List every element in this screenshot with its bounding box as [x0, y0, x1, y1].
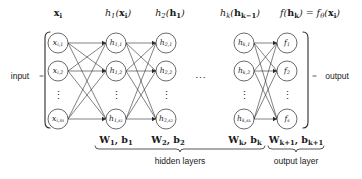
node-label-h-k-2: hk,2	[238, 67, 250, 76]
top-label-input: xi	[54, 8, 62, 19]
weight-label-wk1: Wk+1, bk+1	[269, 135, 323, 146]
side-label-output: output	[325, 72, 349, 81]
weight-label-wk: Wk, bk	[228, 135, 261, 146]
node-label-h-1-1: h1,1	[110, 39, 122, 48]
horizontal-ellipsis-layers: ⋯	[195, 73, 206, 84]
vertical-ellipsis-input: ⋮	[53, 90, 64, 101]
vertical-ellipsis-hidden1: ⋮	[111, 90, 122, 101]
vertical-ellipsis-output: ⋮	[282, 90, 293, 101]
node-label-x-i-2: xi,2	[53, 67, 63, 76]
group-label-output-layer: output layer	[274, 157, 318, 166]
node-label-f-2: f2	[284, 67, 290, 76]
node-label-h-2-1: h2,1	[160, 39, 172, 48]
top-label-hidden-1: h1(xi)	[105, 8, 131, 19]
neural-network-figure: xi h1(xi) h2(h1) hk(hk−1) f(hk) = fθ(xi)…	[0, 0, 362, 179]
top-label-hidden-k: hk(hk−1)	[220, 8, 260, 19]
side-label-input: input	[11, 72, 29, 81]
node-label-h-k-1: hk,1	[238, 39, 250, 48]
top-label-output: f(hk) = fθ(xi)	[280, 8, 340, 19]
network-brackets	[45, 32, 308, 128]
vertical-ellipsis-hiddenk: ⋮	[239, 90, 250, 101]
vertical-ellipsis-hidden2: ⋮	[161, 90, 172, 101]
node-label-h-k-sk: hk,sk	[237, 115, 251, 124]
weight-label-w2: W2, b2	[151, 135, 184, 146]
group-label-hidden-layers: hidden layers	[155, 157, 206, 166]
node-label-f-1: f1	[284, 39, 290, 48]
underbraces	[95, 146, 324, 152]
node-label-x-i-1: xi,1	[53, 39, 63, 48]
node-label-f-s: fs	[284, 115, 289, 124]
node-label-x-i-m: xi,m	[52, 115, 64, 124]
node-label-h-1-2: h1,2	[110, 67, 122, 76]
weight-label-w1: W1, b1	[99, 135, 132, 146]
node-label-h-2-s2: h2,s2	[159, 115, 173, 124]
node-label-h-1-s1: h1,s1	[109, 115, 123, 124]
edge-arrowheads	[102, 41, 277, 121]
top-label-hidden-2: h2(h1)	[155, 8, 185, 19]
node-label-h-2-2: h2,2	[160, 67, 172, 76]
